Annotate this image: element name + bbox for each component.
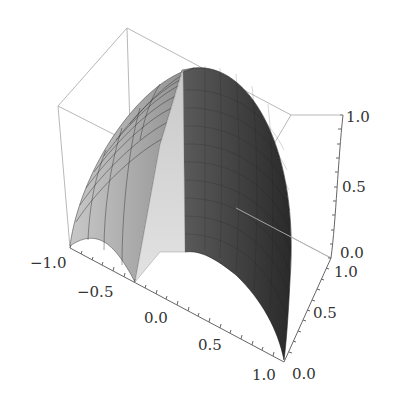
surface: [70, 66, 291, 360]
x-tick-label: −1.0: [30, 254, 66, 272]
y-axis: 0.0 0.5 1.0: [284, 258, 358, 383]
surface-right-face: [183, 68, 291, 360]
z-tick-label: 0.0: [340, 244, 364, 262]
x-tick-label: 0.5: [198, 336, 222, 354]
x-tick-label: 1.0: [252, 366, 276, 384]
z-tick-label: 1.0: [346, 108, 370, 126]
x-tick-label: 0.0: [144, 309, 168, 327]
y-tick-label: 0.0: [292, 365, 316, 383]
z-tick-label: 0.5: [342, 178, 366, 196]
y-tick-label: 0.5: [313, 304, 337, 322]
y-tick-label: 1.0: [334, 263, 358, 281]
x-tick-label: −0.5: [77, 283, 113, 301]
surface-plot-3d: −1.0 −0.5 0.0 0.5 1.0 0.0 0.5 1.0: [0, 0, 397, 404]
z-axis: 0.0 0.5 1.0: [291, 108, 370, 262]
